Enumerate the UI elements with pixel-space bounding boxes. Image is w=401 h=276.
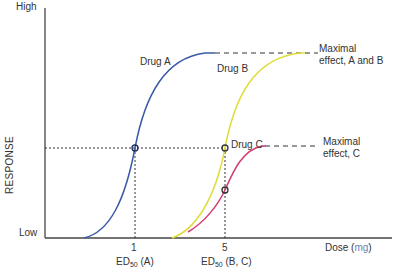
max-effect-ab-label-line1: Maximal [319, 43, 356, 55]
y-high-label: High [16, 1, 37, 13]
ed50-bc-label: ED50 (B, C) [201, 256, 252, 271]
x-tick-1: 1 [131, 242, 137, 254]
max-effect-ab-label-line2: effect, A and B [319, 55, 383, 67]
drug-b-label: Drug B [217, 63, 248, 75]
drug-a-label: Drug A [140, 56, 171, 68]
x-tick-5: 5 [222, 242, 228, 254]
ed50-a-label: ED50 (A) [116, 256, 154, 271]
y-low-label: Low [19, 227, 37, 239]
y-axis-title: RESPONSE [4, 136, 15, 194]
drug-c-label: Drug C [231, 139, 263, 151]
drug-a-curve [84, 53, 215, 238]
drug-c-curve [188, 146, 266, 232]
max-effect-c-label-line2: effect, C [323, 148, 360, 160]
max-effect-c-label-line1: Maximal [323, 136, 360, 148]
x-axis-title: Dose (mg) [325, 242, 372, 254]
